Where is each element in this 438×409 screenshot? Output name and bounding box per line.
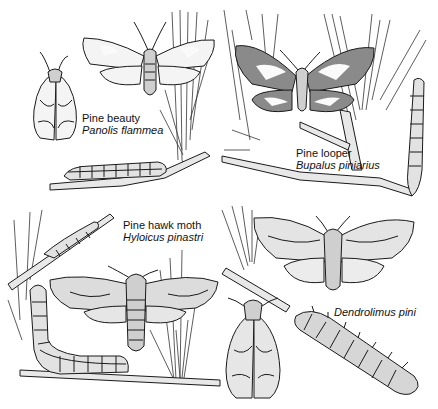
dendrolimus-pini-latin-name: Dendrolimus pini [334, 306, 416, 318]
illustration-artwork [0, 0, 438, 409]
pine-beauty-label: Pine beauty Panolis flammea [82, 112, 163, 136]
pine-hawk-moth-latin-name: Hyloicus pinastri [123, 231, 203, 243]
moth-illustration-plate: Pine beauty Panolis flammea Pine looper … [0, 0, 438, 409]
dendrolimus-pini-label: Dendrolimus pini [334, 306, 416, 318]
pine-looper-latin-name: Bupalus piniarius [296, 159, 380, 171]
pine-beauty-latin-name: Panolis flammea [82, 124, 163, 136]
pine-looper-common-name: Pine looper [296, 147, 380, 159]
dendrolimus-pini-illustration [222, 206, 418, 398]
pine-beauty-illustration [34, 10, 215, 190]
pine-hawk-moth-label: Pine hawk moth Hyloicus pinastri [123, 219, 203, 243]
pine-beauty-common-name: Pine beauty [82, 112, 163, 124]
pine-looper-label: Pine looper Bupalus piniarius [296, 147, 380, 171]
pine-hawk-moth-common-name: Pine hawk moth [123, 219, 203, 231]
